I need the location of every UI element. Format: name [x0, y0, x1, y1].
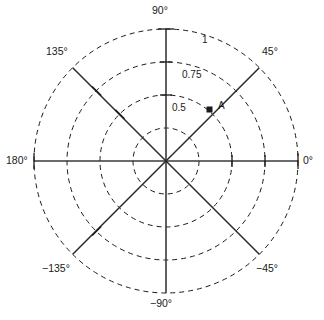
angle-label-0: 0° — [303, 155, 313, 166]
point-a-marker — [207, 107, 213, 113]
radial-label-1: 1 — [202, 35, 208, 45]
radial-label-075: 0.75 — [182, 70, 201, 80]
tick-r075-135 — [92, 87, 101, 96]
angle-label-45: 45° — [262, 46, 278, 57]
angle-label-90: 90° — [152, 5, 168, 16]
angle-label-135: 135° — [46, 46, 68, 57]
point-label-a: A — [218, 101, 225, 111]
polar-plot-figure: 90° 45° 0° −45° −90° −135° 135° 180° 1 0… — [0, 0, 324, 320]
angle-label-neg45: −45° — [256, 263, 278, 274]
radial-label-05: 0.5 — [172, 103, 186, 113]
angle-label-neg135: −135° — [42, 263, 70, 274]
angle-label-180: 180° — [6, 155, 28, 166]
data-point-a — [207, 107, 213, 113]
angle-label-neg90: −90° — [150, 298, 172, 309]
